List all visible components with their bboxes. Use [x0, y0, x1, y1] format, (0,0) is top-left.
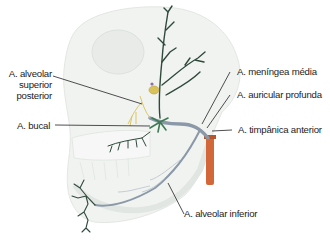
label-line: superior: [2, 79, 52, 90]
label-timpanica-anterior: A. timpânica anterior: [238, 124, 322, 135]
leader-timpanica-anterior: [212, 130, 232, 131]
label-bucal: A. bucal: [17, 120, 50, 131]
label-line: posterior: [2, 90, 52, 101]
external-carotid-artery: [206, 135, 214, 185]
label-auricular-profunda: A. auricular profunda: [237, 89, 322, 100]
yellow-ganglion: [149, 86, 159, 94]
label-line: A. alveolar: [2, 68, 52, 79]
label-meningea-media: A. meníngea média: [237, 66, 317, 77]
label-alveolar-superior-posterior: A. alveolar superior posterior: [2, 68, 52, 101]
orbit-shape: [92, 30, 144, 74]
label-alveolar-inferior: A. alveolar inferior: [184, 208, 257, 219]
anatomy-figure: A. alveolar superior posterior A. bucal …: [0, 0, 330, 242]
